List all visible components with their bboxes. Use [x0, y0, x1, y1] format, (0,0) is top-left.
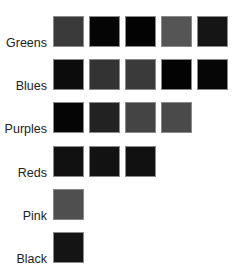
group-label: Purples [5, 122, 47, 136]
color-swatch[interactable] [53, 16, 84, 47]
swatch-row-pink: Pink [0, 189, 239, 220]
color-swatch[interactable] [53, 232, 84, 263]
group-label: Reds [18, 166, 47, 180]
group-label: Pink [23, 209, 47, 223]
color-swatch[interactable] [53, 189, 84, 220]
color-swatch[interactable] [161, 59, 192, 90]
color-swatch[interactable] [197, 59, 228, 90]
group-label: Black [16, 252, 47, 266]
color-swatch[interactable] [125, 146, 156, 177]
color-swatch[interactable] [89, 146, 120, 177]
swatch-row-greens: Greens [0, 16, 239, 47]
color-swatch[interactable] [125, 59, 156, 90]
color-swatch[interactable] [197, 16, 228, 47]
color-swatch[interactable] [53, 102, 84, 133]
swatch-row-blues: Blues [0, 59, 239, 90]
group-label: Blues [16, 79, 47, 93]
color-swatch[interactable] [53, 59, 84, 90]
color-swatch[interactable] [125, 102, 156, 133]
color-swatch[interactable] [53, 146, 84, 177]
color-swatch[interactable] [89, 16, 120, 47]
color-swatch[interactable] [161, 16, 192, 47]
group-label: Greens [6, 36, 47, 50]
color-swatch[interactable] [89, 59, 120, 90]
color-swatch[interactable] [161, 102, 192, 133]
color-swatch[interactable] [125, 16, 156, 47]
swatch-row-black: Black [0, 232, 239, 263]
swatch-row-reds: Reds [0, 146, 239, 177]
swatch-row-purples: Purples [0, 102, 239, 133]
color-swatch[interactable] [89, 102, 120, 133]
